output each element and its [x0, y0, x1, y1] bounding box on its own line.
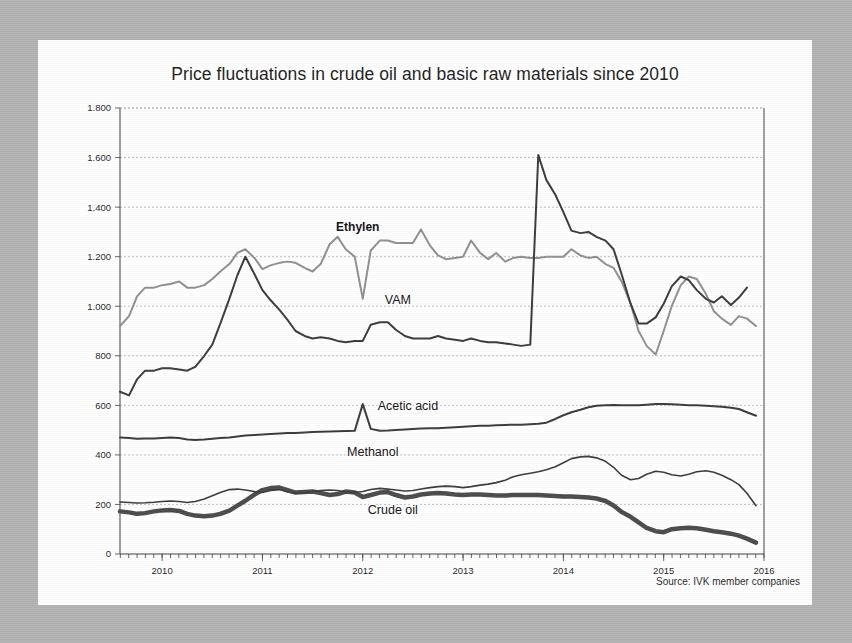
y-axis-tick-label: 400 — [95, 449, 111, 460]
y-axis-tick-label: 0 — [106, 548, 111, 559]
y-axis-tick-label: 600 — [95, 400, 111, 411]
x-axis-tick-label: 2014 — [553, 565, 574, 576]
series-label-vam: VAM — [385, 293, 411, 307]
y-axis-tick-label: 1.200 — [87, 251, 111, 262]
y-axis-tick-label: 800 — [95, 350, 111, 361]
slide-canvas: Price fluctuations in crude oil and basi… — [38, 40, 812, 605]
source-note: Source: IVK member companies — [656, 576, 800, 587]
y-axis-tick-label: 1.800 — [87, 102, 111, 113]
x-axis-tick-label: 2010 — [152, 565, 173, 576]
y-axis-tick-label: 1.600 — [87, 152, 111, 163]
x-axis-tick-label: 2016 — [753, 565, 774, 576]
x-axis-tick-label: 2012 — [352, 565, 373, 576]
slide-page: Price fluctuations in crude oil and basi… — [0, 0, 852, 643]
chart-container: 02004006008001.0001.2001.4001.6001.80020… — [38, 40, 812, 605]
series-label-crude-oil: Crude oil — [368, 503, 418, 517]
x-axis-tick-label: 2013 — [452, 565, 473, 576]
series-line-vam — [120, 155, 747, 395]
line-chart: 02004006008001.0001.2001.4001.6001.80020… — [38, 40, 812, 605]
x-axis-tick-label: 2011 — [252, 565, 272, 576]
series-label-methanol: Methanol — [347, 445, 398, 459]
series-line-methanol — [120, 456, 756, 505]
series-line-crude-oil — [120, 488, 756, 543]
y-axis-tick-label: 1.400 — [87, 202, 111, 213]
series-label-ethylen: Ethylen — [336, 220, 379, 234]
series-label-acetic-acid: Acetic acid — [378, 399, 438, 413]
x-axis-tick-label: 2015 — [653, 565, 674, 576]
y-axis-tick-label: 1.000 — [87, 301, 111, 312]
y-axis-tick-label: 200 — [95, 499, 111, 510]
